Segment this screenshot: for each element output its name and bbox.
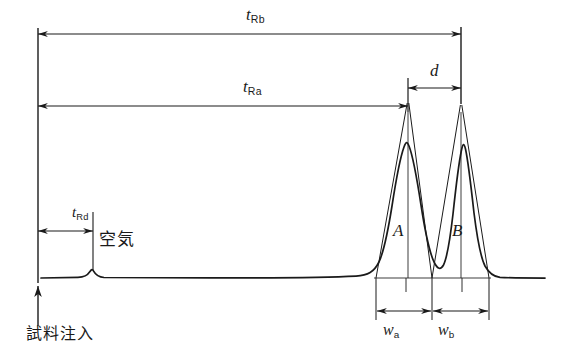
label-w-b-base: w bbox=[438, 321, 449, 338]
label-t-rd-sub: Rd bbox=[76, 212, 88, 222]
label-t-rb: tRb bbox=[246, 6, 265, 24]
label-w-b-sub: b bbox=[449, 329, 455, 340]
label-t-rd: tRd bbox=[72, 205, 89, 222]
width-tick-marks bbox=[376, 278, 489, 320]
peak-a-tangent-triangle bbox=[376, 103, 432, 278]
label-t-rb-sub: Rb bbox=[251, 13, 265, 25]
label-w-a-sub: a bbox=[394, 329, 400, 340]
label-sample-injection: 試料注入 bbox=[26, 326, 94, 342]
label-w-a: wa bbox=[383, 322, 399, 340]
label-d: d bbox=[430, 62, 439, 79]
label-t-ra-sub: Ra bbox=[248, 85, 262, 97]
label-air-peak: 空気 bbox=[99, 231, 135, 248]
chromatogram-figure: tRb tRa d tRd 空気 A B wa wb 試料注入 bbox=[0, 0, 572, 360]
label-d-base: d bbox=[430, 61, 439, 80]
label-w-a-base: w bbox=[383, 321, 394, 338]
label-t-ra: tRa bbox=[243, 78, 262, 96]
label-peak-b: B bbox=[452, 222, 462, 239]
chromatogram-plot bbox=[0, 0, 572, 360]
chromatogram-trace bbox=[41, 143, 545, 278]
label-peak-a: A bbox=[393, 222, 403, 239]
label-w-b: wb bbox=[438, 322, 454, 340]
